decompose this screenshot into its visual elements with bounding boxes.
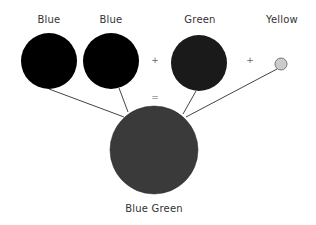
- label-blue-2: Blue: [100, 14, 123, 25]
- yellow-circle: [275, 58, 287, 70]
- label-blue-green: Blue Green: [125, 203, 183, 214]
- label-blue-1: Blue: [38, 14, 61, 25]
- plus-operator-1: +: [151, 55, 159, 65]
- plus-operator-2: +: [246, 55, 254, 65]
- blue-green-result-circle: [110, 106, 198, 194]
- connector-green: [183, 91, 196, 114]
- equals-operator: =: [151, 92, 159, 102]
- label-green: Green: [184, 14, 215, 25]
- connector-blue-1: [49, 89, 124, 117]
- blue-circle-2: [83, 33, 139, 89]
- label-yellow: Yellow: [266, 14, 298, 25]
- green-circle: [171, 35, 227, 91]
- color-mixing-diagram: [0, 0, 316, 225]
- blue-circle-1: [21, 33, 77, 89]
- connector-blue-2: [119, 88, 128, 112]
